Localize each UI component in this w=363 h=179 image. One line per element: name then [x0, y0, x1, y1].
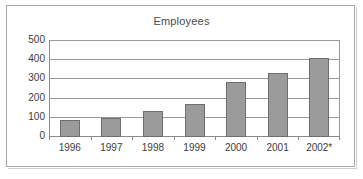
x-tickmark-4 [215, 137, 216, 140]
x-tickmark-5 [257, 137, 258, 140]
y-tick-label-100: 100 [1, 111, 45, 122]
x-tick-label-1997: 1997 [91, 142, 133, 153]
x-tickmark-0 [49, 137, 50, 140]
x-tick-label-2000: 2000 [215, 142, 257, 153]
y-tick-label-500: 500 [1, 34, 45, 45]
x-tickmark-7 [339, 137, 340, 140]
y-tick-label-300: 300 [1, 72, 45, 83]
x-tick-label-1998: 1998 [132, 142, 174, 153]
bar-series [49, 40, 340, 136]
x-tick-label-2002-est: 2002* [298, 142, 340, 153]
chart-title: Employees [0, 15, 363, 27]
bar-2002-est [309, 58, 329, 137]
bar-1998 [143, 111, 163, 137]
y-axis-tick-labels: 0100200300400500 [0, 0, 45, 179]
x-tickmark-1 [91, 137, 92, 140]
x-tickmark-2 [132, 137, 133, 140]
x-tickmark-3 [174, 137, 175, 140]
y-tick-label-400: 400 [1, 53, 45, 64]
y-tick-label-200: 200 [1, 92, 45, 103]
x-tick-label-1999: 1999 [174, 142, 216, 153]
bar-1997 [101, 118, 121, 137]
bar-2001 [268, 73, 288, 137]
x-tickmark-6 [298, 137, 299, 140]
bar-2000 [226, 82, 246, 137]
x-tick-label-1996: 1996 [49, 142, 91, 153]
x-tick-label-2001: 2001 [257, 142, 299, 153]
bar-1999 [185, 104, 205, 137]
bar-1996 [60, 120, 80, 137]
y-tick-label-0: 0 [1, 130, 45, 141]
